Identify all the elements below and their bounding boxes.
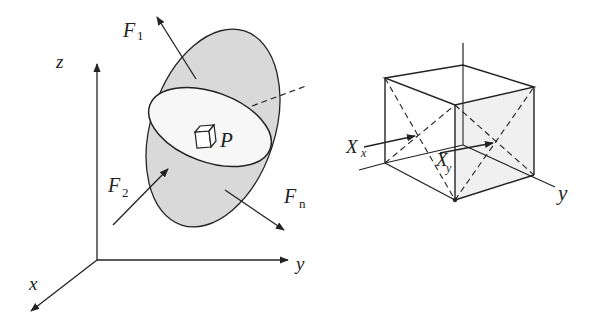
svg-text:F: F [283,185,297,207]
diagram-canvas: z y x P F 1 F 2 F n [0,0,592,329]
svg-text:X: X [345,136,359,157]
svg-text:n: n [299,196,306,211]
x-axis-label: x [28,273,38,294]
svg-text:F: F [122,19,136,41]
xx-label: X x [345,136,367,160]
x-axis [31,260,97,311]
svg-text:1: 1 [137,28,144,43]
force-f2-label: F 2 [107,174,129,200]
xx-arrow [364,136,415,147]
force-fn-arrow [225,190,284,230]
svg-text:x: x [360,146,367,160]
z-axis-label: z [55,51,64,72]
point-label: P [219,128,233,152]
svg-text:2: 2 [122,185,129,200]
left-figure: z y x P F 1 F 2 F n [28,12,306,311]
svg-text:F: F [107,174,121,196]
svg-text:y: y [445,161,452,175]
x-axis-line [359,163,385,170]
right-y-axis-label: y [556,181,568,205]
force-f1-label: F 1 [122,19,144,43]
y-axis-label: y [294,253,305,274]
corner-dot [453,198,457,202]
xy-label: X y [435,149,452,175]
right-figure [359,43,555,202]
element-cube-icon [195,125,216,148]
force-fn-label: F n [283,185,306,211]
